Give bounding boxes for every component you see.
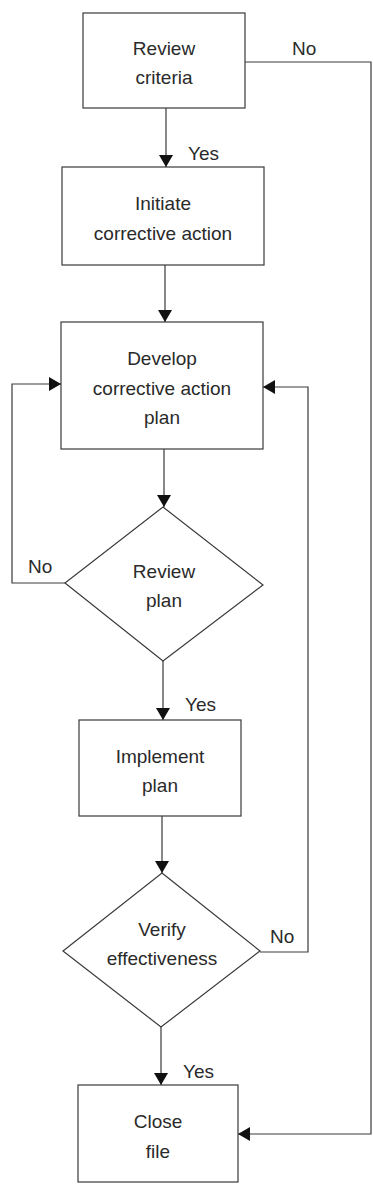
node-develop-plan: Develop corrective action plan bbox=[61, 322, 263, 449]
edge-review-criteria-to-initiate: Yes bbox=[166, 108, 219, 167]
node-label: criteria bbox=[135, 67, 192, 88]
edge-verify-to-develop: No bbox=[260, 387, 308, 952]
node-label: Close bbox=[134, 1111, 183, 1132]
edge-label-no: No bbox=[28, 556, 52, 577]
edge-label-yes: Yes bbox=[185, 694, 216, 715]
edge-label-yes: Yes bbox=[188, 143, 219, 164]
edge-label-no: No bbox=[292, 38, 316, 59]
node-label: Verify bbox=[138, 919, 186, 940]
initiate-box bbox=[62, 167, 264, 265]
edge-label-yes: Yes bbox=[183, 1061, 214, 1082]
close-file-box bbox=[78, 1085, 238, 1182]
node-label: Review bbox=[133, 38, 196, 59]
node-verify-effectiveness: Verify effectiveness bbox=[63, 873, 260, 1027]
node-label: Initiate bbox=[135, 193, 191, 214]
node-label: plan bbox=[144, 407, 180, 428]
node-review-criteria: Review criteria bbox=[83, 13, 245, 108]
edge-review-plan-to-develop: No bbox=[12, 384, 65, 583]
node-label: Develop bbox=[127, 348, 197, 369]
node-label: plan bbox=[142, 775, 178, 796]
node-label: plan bbox=[146, 590, 182, 611]
node-label: corrective action bbox=[93, 378, 231, 399]
edge-label-no: No bbox=[270, 926, 294, 947]
arrow-left-icon bbox=[260, 387, 308, 952]
review-criteria-box bbox=[83, 13, 245, 108]
node-initiate-corrective-action: Initiate corrective action bbox=[62, 167, 264, 265]
arrow-right-icon bbox=[12, 384, 65, 583]
node-label: corrective action bbox=[94, 223, 232, 244]
node-label: file bbox=[146, 1141, 170, 1162]
node-label: Review bbox=[133, 561, 196, 582]
node-close-file: Close file bbox=[78, 1085, 238, 1182]
edge-review-plan-to-implement: Yes bbox=[163, 661, 216, 720]
node-implement-plan: Implement plan bbox=[79, 720, 241, 816]
implement-box bbox=[79, 720, 241, 816]
node-label: Implement bbox=[116, 746, 205, 767]
flowchart-canvas: Review criteria Yes No Initiate correcti… bbox=[0, 0, 373, 1192]
node-review-plan: Review plan bbox=[65, 507, 263, 661]
node-label: effectiveness bbox=[107, 948, 218, 969]
edge-verify-to-close: Yes bbox=[161, 1027, 214, 1085]
review-plan-diamond bbox=[65, 507, 263, 661]
